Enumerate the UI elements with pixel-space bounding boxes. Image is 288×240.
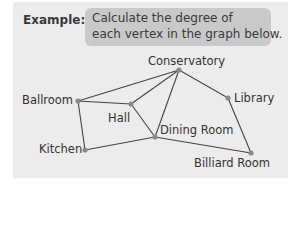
node-label-hall: Hall — [108, 111, 130, 125]
edge-kitchen-dining — [85, 137, 155, 150]
node-label-billiard: Billiard Room — [194, 156, 270, 170]
node-kitchen — [82, 147, 87, 152]
node-hall — [128, 101, 133, 106]
edge-ballroom-hall — [78, 101, 131, 104]
node-billiard — [248, 150, 253, 155]
node-label-ballroom: Ballroom — [22, 93, 73, 107]
node-dining — [152, 134, 157, 139]
edge-hall-conservatory — [131, 70, 179, 104]
edge-ballroom-conservatory — [78, 70, 179, 101]
edge-dining-billiard — [155, 137, 251, 153]
node-conservatory — [176, 67, 181, 72]
edge-conservatory-library — [179, 70, 228, 98]
node-label-conservatory: Conservatory — [148, 54, 225, 68]
edge-hall-dining — [131, 104, 155, 137]
node-ballroom — [75, 98, 80, 103]
node-label-library: Library — [234, 91, 274, 105]
node-label-dining: Dining Room — [160, 123, 234, 137]
node-label-kitchen: Kitchen — [39, 142, 82, 156]
node-library — [225, 95, 230, 100]
